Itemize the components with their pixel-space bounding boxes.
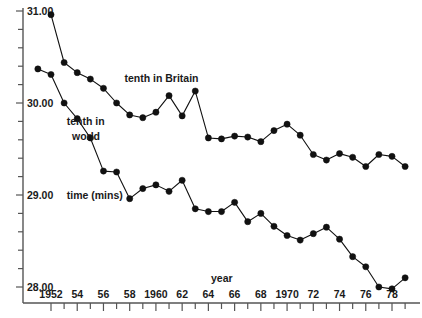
line-chart: 31.0030.0029.0028.0019525456581960626466… xyxy=(0,0,422,318)
data-point xyxy=(350,254,356,260)
data-point xyxy=(179,113,185,119)
series-label-world-line1: tenth in xyxy=(67,115,105,127)
data-point xyxy=(232,133,238,139)
data-point xyxy=(402,275,408,281)
data-point xyxy=(218,136,224,142)
data-point xyxy=(192,88,198,94)
series-label-world-line2: world xyxy=(71,130,100,142)
x-axis-tick-label: 1970 xyxy=(275,288,299,300)
data-point xyxy=(48,12,54,18)
data-point xyxy=(87,76,93,82)
x-axis-tick-label: 58 xyxy=(124,288,136,300)
data-point xyxy=(336,236,342,242)
x-axis-tick-label: 66 xyxy=(229,288,241,300)
x-axis-title: year xyxy=(211,272,233,284)
data-point xyxy=(284,232,290,238)
data-point xyxy=(310,151,316,157)
data-point xyxy=(205,208,211,214)
x-axis-tick-label: 68 xyxy=(255,288,267,300)
data-point xyxy=(218,208,224,214)
x-axis-tick-label: 1952 xyxy=(39,288,63,300)
data-point xyxy=(310,231,316,237)
data-point xyxy=(389,286,395,292)
x-axis-tick-label: 74 xyxy=(334,288,346,300)
x-axis-tick-label: 72 xyxy=(307,288,319,300)
data-point xyxy=(61,100,67,106)
data-point xyxy=(140,185,146,191)
data-point xyxy=(297,132,303,138)
data-point xyxy=(258,139,264,145)
data-point xyxy=(363,264,369,270)
data-point xyxy=(61,59,67,65)
y-axis-tick-label: 30.00 xyxy=(27,97,53,109)
data-point xyxy=(127,112,133,118)
data-point xyxy=(363,163,369,169)
data-point xyxy=(350,154,356,160)
series-world xyxy=(35,66,408,292)
data-point xyxy=(376,151,382,157)
series-label-britain: tenth in Britain xyxy=(124,72,198,84)
data-point xyxy=(166,93,172,99)
data-point xyxy=(205,135,211,141)
y-axis-tick-label: 29.00 xyxy=(27,189,53,201)
data-point xyxy=(245,134,251,140)
data-point xyxy=(166,188,172,194)
data-point xyxy=(140,115,146,121)
chart-container: 31.0030.0029.0028.0019525456581960626466… xyxy=(0,0,422,318)
x-axis-tick-label: 64 xyxy=(203,288,215,300)
data-point xyxy=(284,121,290,127)
data-point xyxy=(258,210,264,216)
data-point xyxy=(113,100,119,106)
data-point xyxy=(323,224,329,230)
data-point xyxy=(35,66,41,72)
data-point xyxy=(376,284,382,290)
x-axis-tick-label: 1960 xyxy=(144,288,168,300)
data-point xyxy=(271,223,277,229)
data-point xyxy=(232,199,238,205)
data-point xyxy=(74,70,80,76)
data-point xyxy=(48,71,54,77)
data-point xyxy=(245,219,251,225)
data-point xyxy=(192,206,198,212)
data-point xyxy=(100,168,106,174)
data-point xyxy=(153,182,159,188)
data-point xyxy=(389,153,395,159)
x-axis-tick-label: 54 xyxy=(71,288,83,300)
data-point xyxy=(113,169,119,175)
x-axis-tick-label: 76 xyxy=(360,288,372,300)
x-axis-tick-label: 56 xyxy=(98,288,110,300)
data-point xyxy=(100,85,106,91)
data-point xyxy=(323,157,329,163)
data-point xyxy=(297,237,303,243)
data-point xyxy=(179,177,185,183)
y-axis-title: time (mins) xyxy=(67,189,123,201)
series-britain xyxy=(48,12,408,170)
data-point xyxy=(271,128,277,134)
x-axis-tick-label: 62 xyxy=(176,288,188,300)
data-point xyxy=(336,151,342,157)
data-point xyxy=(402,163,408,169)
data-point xyxy=(127,196,133,202)
data-point xyxy=(153,109,159,115)
